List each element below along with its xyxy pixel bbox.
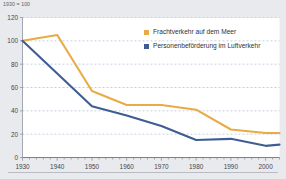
x-axis-tick-label: 1970 xyxy=(148,163,174,170)
y-axis-tick-label: 100 xyxy=(2,37,18,44)
y-axis-tick-label: 80 xyxy=(2,61,18,68)
chart-figure: 1930 = 100 020406080100120 1930194019501… xyxy=(0,0,286,179)
legend-swatch-fracht xyxy=(144,30,149,35)
y-axis-tick-label: 20 xyxy=(2,131,18,138)
x-axis-tick-label: 1980 xyxy=(183,163,209,170)
x-axis-tick-label: 1930 xyxy=(10,163,36,170)
legend-item-personen[interactable]: Personenbeförderung im Luftverkehr xyxy=(144,41,284,52)
chart-legend: Frachtverkehr auf dem Meer Personenbeför… xyxy=(144,27,284,55)
x-axis-tick-label: 1950 xyxy=(79,163,105,170)
y-axis-tick-label: 40 xyxy=(2,107,18,114)
y-axis-tick-label: 60 xyxy=(2,84,18,91)
legend-item-fracht[interactable]: Frachtverkehr auf dem Meer xyxy=(144,27,284,38)
x-axis-tick-label: 2000 xyxy=(253,163,279,170)
x-axis-tick-label: 1990 xyxy=(218,163,244,170)
legend-label-fracht: Frachtverkehr auf dem Meer xyxy=(153,29,236,36)
legend-swatch-personen xyxy=(144,44,149,49)
x-axis-tick-label: 1940 xyxy=(44,163,70,170)
footer-divider xyxy=(8,172,278,173)
legend-label-personen: Personenbeförderung im Luftverkehr xyxy=(153,43,260,50)
x-axis-tick-label: 1960 xyxy=(114,163,140,170)
y-axis-tick-label: 120 xyxy=(2,14,18,21)
y-axis-tick-label: 0 xyxy=(2,154,18,161)
